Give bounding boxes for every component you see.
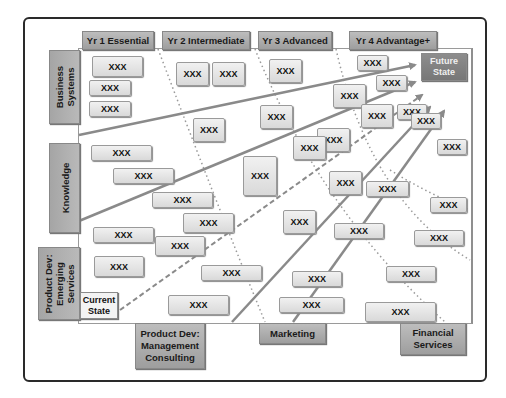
column-label: Yr 3 Advanced [262,35,328,47]
bottom-tab-management-consulting: Product Dev: Management Consulting [135,323,205,369]
initiative-box: XXX [91,145,152,161]
bottom-tab-financial-services: Financial Services [400,323,466,355]
initiative-box: XXX [414,230,464,246]
initiative-box: XXX [176,62,209,86]
column-tab-yr1: Yr 1 Essential [82,31,154,50]
initiative-box: XXX [260,105,293,129]
column-tab-yr3: Yr 3 Advanced [258,31,332,50]
initiative-box: XXX [361,104,393,128]
column-tab-yr4: Yr 4 Advantage+ [349,31,437,50]
initiative-box: XXX [430,197,467,213]
initiative-box: XXX [89,80,131,96]
bottom-label: Product Dev: Management Consulting [140,328,199,364]
column-label: Yr 2 Intermediate [167,35,244,47]
initiative-box: XXX [411,113,441,129]
row-tab-business-systems: Business Systems [49,50,80,124]
initiative-box: XXX [93,227,154,243]
initiative-box: XXX [155,236,205,256]
initiative-box: XXX [212,62,245,86]
initiative-box: XXX [243,156,277,196]
initiative-box: XXX [329,171,362,195]
initiative-box: XXX [183,213,234,233]
bottom-label: Financial Services [412,327,453,351]
initiative-box: XXX [193,118,225,142]
row-tab-product-dev-emerging: Product Dev: Emerging Services [38,247,80,320]
row-label: Knowledge [59,163,70,214]
initiative-box: XXX [293,136,326,160]
initiative-box: XXX [365,302,436,322]
initiative-box: XXX [92,56,143,77]
row-tab-knowledge: Knowledge [49,143,80,233]
future-state-box: Future State [421,53,467,81]
initiative-box: XXX [334,223,384,239]
column-tab-yr2: Yr 2 Intermediate [162,31,250,50]
initiative-box: XXX [357,55,388,71]
initiative-box: XXX [89,101,131,117]
column-label: Yr 1 Essential [87,35,149,47]
initiative-box: XXX [386,266,436,282]
row-label: Business Systems [54,66,76,108]
row-label: Product Dev: Emerging Services [43,254,76,313]
bottom-tab-marketing: Marketing [259,323,326,344]
initiative-box: XXX [292,271,342,287]
initiative-box: XXX [201,265,262,281]
initiative-box: XXX [113,168,174,184]
column-label: Yr 4 Advantage+ [356,35,430,47]
initiative-box: XXX [366,181,409,197]
initiative-box: XXX [376,75,407,91]
initiative-box: XXX [94,256,144,277]
initiative-box: XXX [283,210,316,234]
initiative-box: XXX [437,139,467,155]
initiative-box: XXX [269,59,302,83]
initiative-box: XXX [279,297,344,313]
bottom-label: Marketing [270,328,315,340]
current-state-box: Current State [80,292,118,319]
initiative-box: XXX [152,192,213,208]
initiative-box: XXX [168,295,229,315]
